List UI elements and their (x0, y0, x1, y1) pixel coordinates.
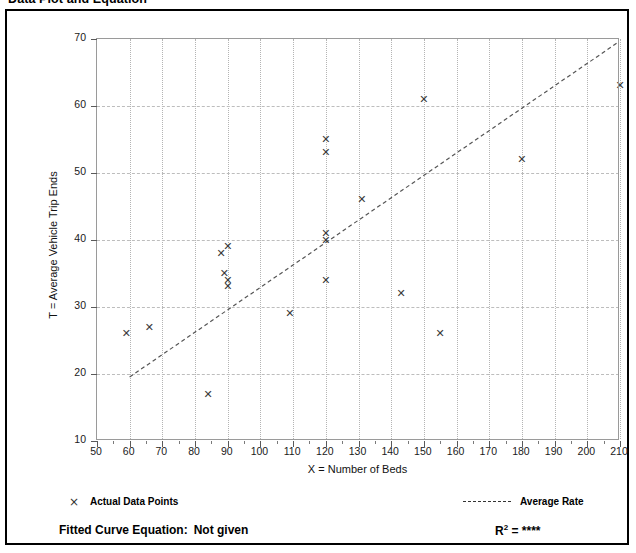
y-axis-tick (91, 173, 97, 174)
legend: × Actual Data Points Average Rate (7, 492, 631, 518)
y-axis-tick (91, 307, 97, 308)
x-axis-title: X = Number of Beds (96, 463, 619, 475)
y-axis-tick (91, 374, 97, 375)
x-axis-minor-tick (179, 441, 180, 444)
y-axis-tick (91, 441, 97, 442)
x-axis-minor-tick (113, 441, 114, 444)
x-axis-minor-tick (506, 441, 507, 444)
x-axis-minor-tick (375, 441, 376, 444)
fitted-curve-equation-value: Not given (194, 523, 249, 537)
x-axis-minor-tick (538, 441, 539, 444)
r-squared-block: R2 = **** (495, 523, 541, 538)
y-axis-tick-label: 10 (54, 433, 86, 445)
x-axis-minor-tick (277, 441, 278, 444)
fitted-curve-equation-label: Fitted Curve Equation: (59, 523, 188, 537)
x-axis-minor-tick (244, 441, 245, 444)
y-axis-tick-label: 70 (54, 31, 86, 43)
legend-actual-data-points-label: Actual Data Points (90, 496, 178, 507)
average-rate-line-icon (463, 501, 511, 502)
data-point-marker-icon: × (69, 495, 79, 509)
fitted-curve-equation: Fitted Curve Equation:Not given (59, 523, 248, 537)
y-axis-tick (91, 106, 97, 107)
x-axis-minor-tick (604, 441, 605, 444)
x-axis-minor-tick (408, 441, 409, 444)
y-axis-title: T = Average Vehicle Trip Ends (47, 95, 59, 395)
equation-row: Fitted Curve Equation:Not given R2 = ***… (7, 523, 631, 547)
x-axis-minor-tick (440, 441, 441, 444)
average-rate-trend-line (97, 39, 619, 439)
legend-average-rate-label: Average Rate (520, 496, 584, 507)
r-squared-exponent: 2 (504, 523, 508, 532)
x-axis-minor-tick (571, 441, 572, 444)
r-squared-equals: = (511, 524, 518, 538)
r-squared-value: **** (522, 524, 541, 538)
page-title: Data Plot and Equation (8, 0, 147, 6)
gridline-vertical (620, 39, 621, 439)
x-axis-minor-tick (211, 441, 212, 444)
r-squared-prefix: R (495, 524, 504, 538)
x-axis-minor-tick (309, 441, 310, 444)
plot-right-border (618, 38, 619, 440)
x-axis-minor-tick (342, 441, 343, 444)
plot-area: ✕✕✕✕✕✕✕✕✕✕✕✕✕✕✕✕✕✕✕✕ (96, 38, 619, 440)
chart-panel: ✕✕✕✕✕✕✕✕✕✕✕✕✕✕✕✕✕✕✕✕ 5060708090100110120… (5, 9, 629, 545)
x-axis-minor-tick (146, 441, 147, 444)
y-axis-tick (91, 240, 97, 241)
x-axis-minor-tick (473, 441, 474, 444)
y-axis-tick (91, 39, 97, 40)
x-axis-tick-label: 210 (599, 445, 636, 457)
